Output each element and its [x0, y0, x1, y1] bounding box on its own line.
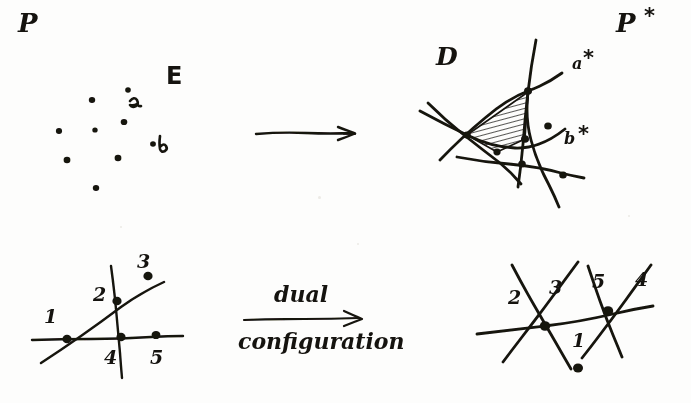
dual-config-line-label-5: 5 — [592, 272, 605, 291]
plane-label-p: P — [18, 10, 38, 36]
cell-label-d: D — [436, 44, 458, 69]
dual-config-line-label-2: 2 — [508, 288, 521, 307]
dual-config-line-label-4: 4 — [635, 270, 648, 289]
sketch-canvas: P E P * D a * b * dual configuration 1 2… — [0, 0, 691, 403]
scan-speck — [628, 215, 630, 217]
dual-config-line-label-1: 1 — [572, 331, 585, 350]
scan-speck — [120, 226, 122, 228]
config-line-horizontal — [32, 336, 183, 340]
dual-config-line-label-3: 3 — [549, 278, 562, 297]
middle-arrow — [244, 311, 362, 326]
arrow-caption-dual: dual — [274, 283, 328, 305]
dual-line-b-star — [527, 92, 559, 207]
config-points — [62, 272, 160, 344]
config-point-label-2: 2 — [93, 285, 106, 304]
dual-config-line-1 — [477, 306, 653, 334]
plane-label-p-star-asterisk: * — [644, 6, 655, 27]
dual-line-label-b-asterisk: * — [578, 124, 589, 145]
config-point-label-3: 3 — [137, 252, 150, 271]
point-a-glyph — [130, 98, 141, 107]
plane-label-p-star: P — [616, 10, 636, 36]
point-b-glyph — [160, 136, 167, 152]
arrow-caption-configuration: configuration — [238, 330, 404, 352]
dual-config-line-3 — [503, 262, 578, 362]
dual-line-label-b: b — [564, 131, 575, 147]
config-point-label-5: 5 — [150, 348, 163, 367]
point-set-E — [56, 87, 156, 191]
scan-speck — [318, 196, 321, 199]
scan-speck — [357, 243, 359, 245]
config-point-label-1: 1 — [44, 307, 57, 326]
dual-line-label-a: a — [572, 56, 582, 72]
top-arrow — [256, 127, 355, 140]
point-set-label-e: E — [166, 64, 182, 88]
config-point-label-4: 4 — [104, 348, 117, 367]
dual-line-label-a-asterisk: * — [583, 48, 594, 69]
